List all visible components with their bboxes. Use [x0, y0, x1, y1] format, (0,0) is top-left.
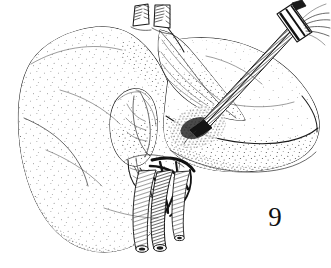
figure-number: 9: [258, 201, 292, 233]
hepatic-vein-stump-left: [133, 4, 149, 26]
hepatic-artery: [172, 171, 190, 241]
common-bile-duct: [151, 170, 173, 251]
hepatic-vein-stump-right: [154, 5, 170, 28]
figure-container: 9: [0, 0, 331, 268]
